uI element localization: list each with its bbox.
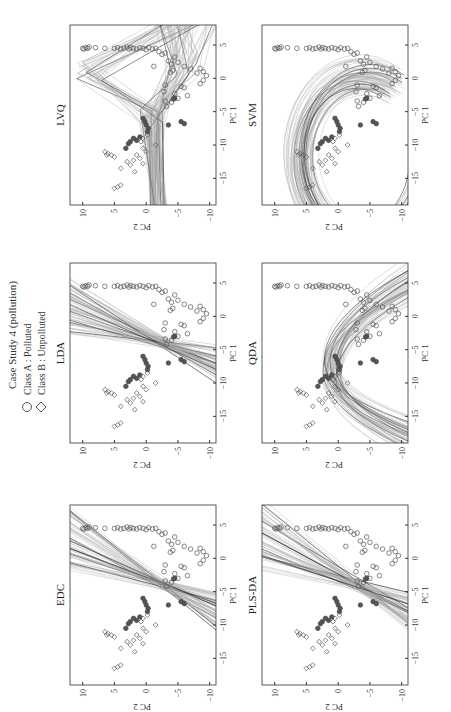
svg-text:−5: −5: [411, 345, 420, 354]
data-points: [80, 45, 208, 191]
svg-text:−5: −5: [366, 209, 375, 218]
x-axis-label: PC 1: [420, 263, 430, 443]
y-axis-label: PC 2: [122, 702, 162, 712]
decision-boundaries: [77, 18, 222, 211]
svg-text:0: 0: [219, 76, 228, 80]
plot-area: −15−10−505−10−50510: [70, 25, 216, 205]
circle-marker-icon: [21, 401, 33, 413]
svg-text:10: 10: [271, 447, 280, 455]
plot-area: −15−10−505−10−50510: [262, 263, 408, 443]
svg-text:−5: −5: [174, 689, 183, 698]
panel-title: EDC: [54, 505, 66, 685]
diamond-marker-icon: [35, 401, 47, 413]
svg-text:−10: −10: [206, 447, 215, 460]
plot-area: −15−10−505−10−50510: [262, 505, 408, 685]
svg-text:−5: −5: [366, 447, 375, 456]
svg-text:5: 5: [411, 523, 420, 527]
legend-title: Case Study 4 (pollution): [6, 235, 18, 435]
x-axis-label: PC 1: [420, 25, 430, 205]
panel-pls-da: PLS-DA−15−10−505−10−50510PC 1PC 2: [262, 505, 408, 685]
y-axis-label: PC 2: [122, 222, 162, 232]
svg-text:5: 5: [219, 523, 228, 527]
svg-text:−15: −15: [411, 410, 420, 423]
plot-area: −15−10−505−10−50510: [70, 263, 216, 443]
x-axis-label: PC 1: [228, 505, 238, 685]
svg-text:5: 5: [110, 447, 119, 451]
svg-text:10: 10: [271, 209, 280, 217]
svg-text:10: 10: [79, 447, 88, 455]
svg-text:−10: −10: [219, 377, 228, 390]
svg-text:5: 5: [302, 447, 311, 451]
svg-text:−5: −5: [411, 587, 420, 596]
y-axis-label: PC 2: [314, 222, 354, 232]
panel-title: LDA: [54, 263, 66, 443]
svg-text:0: 0: [334, 689, 343, 693]
svg-text:0: 0: [142, 689, 151, 693]
svg-text:0: 0: [411, 556, 420, 560]
svg-text:−10: −10: [206, 209, 215, 222]
svg-text:0: 0: [142, 447, 151, 451]
svg-text:−5: −5: [411, 107, 420, 116]
svg-text:−10: −10: [411, 377, 420, 390]
svg-text:−10: −10: [219, 139, 228, 152]
svg-text:0: 0: [411, 314, 420, 318]
svg-text:10: 10: [79, 689, 88, 697]
y-axis-label: PC 2: [122, 460, 162, 470]
svg-text:5: 5: [302, 689, 311, 693]
legend-label-class-a: Class A : Polluted: [22, 324, 33, 395]
plot-area: −15−10−505−10−50510: [70, 505, 216, 685]
svg-text:5: 5: [219, 281, 228, 285]
svg-text:0: 0: [219, 314, 228, 318]
svg-text:5: 5: [219, 43, 228, 47]
panel-title: PLS-DA: [246, 505, 258, 685]
svg-text:−10: −10: [411, 619, 420, 632]
svg-text:0: 0: [142, 209, 151, 213]
legend: Case Study 4 (pollution) Class A : Pollu…: [6, 235, 48, 435]
svg-text:−10: −10: [398, 689, 407, 702]
svg-text:−10: −10: [206, 689, 215, 702]
panel-qda: QDA−15−10−505−10−50510PC 1PC 2: [262, 263, 408, 443]
svg-text:−10: −10: [398, 447, 407, 460]
x-axis-label: PC 1: [228, 25, 238, 205]
svg-text:0: 0: [334, 447, 343, 451]
panel-title: LVQ: [54, 25, 66, 205]
x-axis-label: PC 1: [228, 263, 238, 443]
panel-lvq: LVQ−15−10−505−10−50510PC 1PC 2: [70, 25, 216, 205]
svg-text:5: 5: [411, 43, 420, 47]
y-axis-label: PC 2: [314, 702, 354, 712]
data-points: [272, 283, 400, 429]
panel-lda: LDA−15−10−505−10−50510PC 1PC 2: [70, 263, 216, 443]
plot-area: −15−10−505−10−50510: [262, 25, 408, 205]
svg-text:5: 5: [110, 689, 119, 693]
svg-text:−15: −15: [219, 410, 228, 423]
svg-text:0: 0: [219, 556, 228, 560]
svg-text:0: 0: [334, 209, 343, 213]
svg-text:10: 10: [79, 209, 88, 217]
panel-edc: EDC−15−10−505−10−50510PC 1PC 2: [70, 505, 216, 685]
svg-text:−10: −10: [411, 139, 420, 152]
svg-text:−15: −15: [411, 652, 420, 665]
svg-text:10: 10: [271, 689, 280, 697]
svg-text:5: 5: [110, 209, 119, 213]
svg-text:−15: −15: [411, 172, 420, 185]
svg-text:−10: −10: [219, 619, 228, 632]
panel-title: QDA: [246, 263, 258, 443]
svg-text:−5: −5: [366, 689, 375, 698]
svg-text:0: 0: [411, 76, 420, 80]
svg-text:−15: −15: [219, 172, 228, 185]
svg-text:−5: −5: [174, 447, 183, 456]
decision-boundaries: [323, 256, 451, 449]
panel-title: SVM: [246, 25, 258, 205]
svg-text:−5: −5: [219, 107, 228, 116]
legend-label-class-b: Class B : Unpolluted: [36, 311, 47, 395]
svg-text:−5: −5: [219, 345, 228, 354]
x-axis-label: PC 1: [420, 505, 430, 685]
svg-text:−15: −15: [219, 652, 228, 665]
svg-text:5: 5: [302, 209, 311, 213]
svg-text:−10: −10: [398, 209, 407, 222]
y-axis-label: PC 2: [314, 460, 354, 470]
svg-text:5: 5: [411, 281, 420, 285]
legend-item-class-b: Class B : Unpolluted: [34, 235, 48, 413]
legend-item-class-a: Class A : Polluted: [20, 235, 34, 413]
